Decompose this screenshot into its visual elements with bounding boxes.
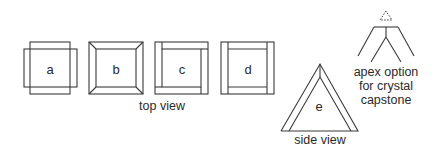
top-view-caption: top view bbox=[139, 99, 186, 113]
square-b: b bbox=[89, 42, 143, 94]
pyramid-joinery-diagram: a b c d top view e side view bbox=[0, 0, 441, 153]
triangle-e: e bbox=[281, 64, 358, 131]
apex-caption-line-3: capstone bbox=[361, 93, 412, 107]
square-c: c bbox=[155, 42, 208, 94]
capstone-triangle-icon bbox=[380, 11, 392, 20]
label-d: d bbox=[244, 62, 251, 77]
square-d: d bbox=[221, 42, 274, 94]
label-a: a bbox=[46, 62, 54, 77]
square-a: a bbox=[24, 42, 77, 94]
side-view-caption: side view bbox=[294, 133, 346, 147]
apex-caption-line-2: for crystal bbox=[359, 79, 413, 93]
apex-caption-line-1: apex option bbox=[354, 65, 419, 79]
label-b: b bbox=[112, 62, 119, 77]
label-e: e bbox=[315, 99, 322, 114]
label-c: c bbox=[179, 62, 186, 77]
apex-option bbox=[358, 11, 414, 62]
